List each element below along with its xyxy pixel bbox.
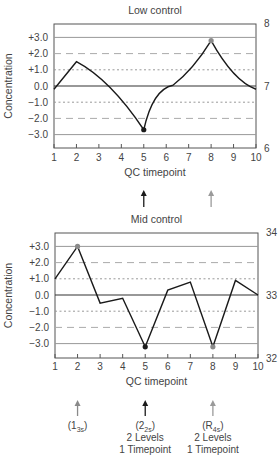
- highlighted-point: [141, 127, 146, 132]
- right-axis-label: 7: [264, 81, 270, 92]
- x-tick-label: 4: [119, 152, 125, 163]
- y-tick-label: +3.0: [29, 241, 49, 252]
- rule-label: (13s): [68, 420, 88, 433]
- y-axis-label: Concentration: [2, 263, 14, 329]
- x-tick-label: 6: [165, 361, 171, 372]
- x-tick-label: 8: [210, 361, 216, 372]
- y-tick-label: +1.0: [29, 273, 49, 284]
- rule-description: 1 Timepoint: [119, 444, 171, 455]
- y-tick-label: −2.0: [28, 113, 48, 124]
- x-tick-label: 1: [51, 152, 57, 163]
- x-tick-label: 2: [75, 361, 81, 372]
- x-tick-label: 3: [97, 361, 103, 372]
- y-tick-label: −3.0: [28, 129, 48, 140]
- rule-label: (22s): [135, 420, 155, 433]
- up-arrow-icon-head: [208, 190, 214, 196]
- x-tick-label: 1: [52, 361, 58, 372]
- right-axis-label: 6: [264, 143, 270, 154]
- chart-title: Mid control: [131, 213, 182, 225]
- x-tick-label: 10: [250, 152, 262, 163]
- rule-label: (R4s): [202, 420, 223, 433]
- highlighted-point: [210, 344, 215, 349]
- x-tick-label: 5: [142, 361, 148, 372]
- y-axis-label: Concentration: [2, 53, 14, 119]
- y-tick-label: 0.0: [35, 290, 49, 301]
- right-axis-label: 33: [266, 290, 278, 301]
- highlighted-point: [75, 244, 80, 249]
- up-arrow-icon-head: [141, 190, 147, 196]
- mid-control-chart: Mid control+3.0+2.0+1.00.0−1.0−2.0−3.0Co…: [2, 213, 278, 387]
- x-axis-label: QC timepoint: [124, 166, 185, 178]
- x-tick-label: 7: [186, 152, 192, 163]
- highlighted-point: [143, 344, 148, 349]
- x-tick-label: 9: [233, 361, 239, 372]
- up-arrow-icon-head: [142, 400, 148, 406]
- right-axis-label: 8: [264, 18, 270, 29]
- x-tick-label: 3: [96, 152, 102, 163]
- rule-description: 2 Levels: [127, 432, 164, 443]
- rule-description: 2 Levels: [194, 432, 231, 443]
- y-tick-label: +1.0: [28, 64, 48, 75]
- x-axis-label: QC timepoint: [126, 375, 187, 387]
- up-arrow-icon-head: [210, 400, 216, 406]
- right-axis-label: 32: [266, 353, 278, 364]
- x-tick-label: 9: [231, 152, 237, 163]
- low-control-chart: Low control+3.0+2.0+1.00.0−1.0−2.0−3.0Co…: [2, 4, 270, 178]
- y-tick-label: +2.0: [28, 48, 48, 59]
- qc-levey-jennings-figure: Low control+3.0+2.0+1.00.0−1.0−2.0−3.0Co…: [0, 0, 278, 456]
- right-axis-label: 34: [266, 227, 278, 238]
- x-tick-label: 2: [74, 152, 80, 163]
- data-series-line: [55, 246, 258, 346]
- highlighted-point: [209, 38, 214, 43]
- x-tick-label: 10: [252, 361, 264, 372]
- x-tick-label: 6: [163, 152, 169, 163]
- up-arrow-icon-head: [75, 400, 81, 406]
- y-tick-label: +2.0: [29, 257, 49, 268]
- y-tick-label: −2.0: [29, 322, 49, 333]
- x-tick-label: 8: [208, 152, 214, 163]
- rule-description: 1 Timepoint: [187, 444, 239, 455]
- chart-title: Low control: [128, 4, 182, 16]
- y-tick-label: +3.0: [28, 32, 48, 43]
- x-tick-label: 7: [188, 361, 194, 372]
- x-tick-label: 5: [141, 152, 147, 163]
- y-tick-label: −1.0: [28, 97, 48, 108]
- y-tick-label: −1.0: [29, 306, 49, 317]
- x-tick-label: 4: [120, 361, 126, 372]
- y-tick-label: −3.0: [29, 338, 49, 349]
- y-tick-label: 0.0: [34, 81, 48, 92]
